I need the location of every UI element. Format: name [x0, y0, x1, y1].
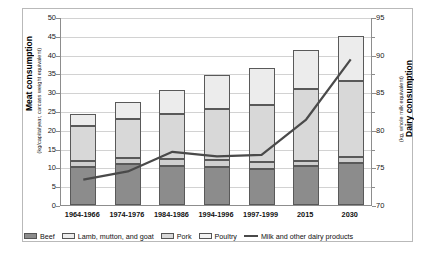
bar-stack [159, 17, 185, 205]
left-tick-label: 20 [32, 127, 56, 135]
right-minor-tick-mark [372, 74, 375, 75]
bar-stack [338, 17, 364, 205]
left-tick-label: 25 [32, 108, 56, 116]
right-minor-tick-mark [372, 150, 375, 151]
right-tick-mark [372, 168, 376, 169]
bar-segment-lamb [249, 68, 275, 106]
bar-segment-beef [204, 167, 230, 205]
legend-item-poultry[interactable]: Poultry [199, 232, 237, 241]
right-tick-label: 80 [376, 127, 402, 135]
bar-segment-lamb [115, 102, 141, 120]
legend-swatch-lamb [62, 233, 75, 239]
bar-segment-poultry [159, 159, 185, 165]
right-tick-label: 85 [376, 89, 402, 97]
right-tick-mark [372, 93, 376, 94]
bar-segment-lamb [159, 90, 185, 113]
bar-segment-beef [249, 169, 275, 205]
bar-segment-beef [293, 166, 319, 205]
bar-segment-lamb [70, 114, 96, 126]
bar-stack [70, 17, 96, 205]
right-tick-mark [372, 206, 376, 207]
bar-segment-poultry [70, 161, 96, 167]
legend-label: Pork [177, 232, 192, 241]
bar-segment-beef [115, 164, 141, 205]
bar-segment-pork [70, 126, 96, 161]
bar-segment-poultry [338, 157, 364, 163]
bar-stack [204, 17, 230, 205]
left-tick-label: 50 [32, 14, 56, 22]
left-tick-mark [56, 56, 60, 57]
bar-segment-pork [115, 119, 141, 157]
right-tick-label: 95 [376, 14, 402, 22]
legend-swatch-poultry [199, 233, 212, 239]
legend-item-beef[interactable]: Beef [24, 232, 55, 241]
chart-figure: Meat consumption (kg/capita/year, carcas… [0, 0, 435, 258]
right-tick-label: 90 [376, 52, 402, 60]
plot-area [60, 18, 372, 206]
right-tick-label: 70 [376, 202, 402, 210]
right-tick-label: 75 [376, 164, 402, 172]
left-tick-mark [56, 37, 60, 38]
bar-segment-beef [70, 167, 96, 205]
bar-segment-lamb [204, 75, 230, 110]
left-tick-mark [56, 112, 60, 113]
bar-segment-poultry [293, 161, 319, 167]
left-tick-mark [56, 93, 60, 94]
left-tick-label: 45 [32, 33, 56, 41]
legend-label: Beef [40, 232, 55, 241]
left-tick-mark [56, 131, 60, 132]
legend-swatch-beef [24, 233, 37, 239]
bar-stack [115, 17, 141, 205]
left-tick-mark [56, 168, 60, 169]
right-tick-mark [372, 131, 376, 132]
bar-segment-poultry [204, 160, 230, 168]
legend-label: Lamb, mutton, and goat [78, 232, 154, 241]
left-tick-mark [56, 74, 60, 75]
left-tick-mark [56, 206, 60, 207]
bar-segment-pork [249, 105, 275, 161]
bar-segment-poultry [115, 158, 141, 164]
chart-legend: BeefLamb, mutton, and goatPorkPoultryMil… [24, 230, 412, 242]
left-tick-label: 10 [32, 164, 56, 172]
left-tick-mark [56, 150, 60, 151]
bar-segment-pork [338, 81, 364, 157]
right-minor-tick-mark [372, 37, 375, 38]
bar-segment-pork [159, 114, 185, 159]
bar-segment-beef [159, 166, 185, 205]
bar-segment-lamb [338, 36, 364, 81]
legend-swatch-pork [161, 233, 174, 239]
bar-stack [293, 17, 319, 205]
legend-label: Milk and other dairy products [261, 232, 353, 241]
right-axis-title: Dairy consumption [404, 60, 414, 137]
bar-segment-pork [204, 109, 230, 160]
legend-line-marker [244, 235, 258, 237]
x-axis-label: 2030 [320, 210, 380, 219]
left-tick-label: 40 [32, 52, 56, 60]
left-tick-label: 5 [32, 183, 56, 191]
right-minor-tick-mark [372, 112, 375, 113]
left-tick-label: 30 [32, 89, 56, 97]
legend-item-milk[interactable]: Milk and other dairy products [244, 232, 353, 241]
right-tick-mark [372, 56, 376, 57]
bar-segment-poultry [249, 162, 275, 169]
bar-segment-beef [338, 163, 364, 205]
legend-label: Poultry [215, 232, 237, 241]
legend-item-pork[interactable]: Pork [161, 232, 192, 241]
left-tick-label: 35 [32, 70, 56, 78]
bar-segment-lamb [293, 50, 319, 89]
bar-stack [249, 17, 275, 205]
left-tick-mark [56, 187, 60, 188]
left-axis-subtitle: (kg/capita/year, carcass weight equivale… [36, 48, 42, 153]
bar-segment-pork [293, 89, 319, 160]
left-tick-label: 0 [32, 202, 56, 210]
left-tick-label: 15 [32, 146, 56, 154]
left-tick-mark [56, 18, 60, 19]
right-minor-tick-mark [372, 187, 375, 188]
right-tick-mark [372, 18, 376, 19]
legend-item-lamb[interactable]: Lamb, mutton, and goat [62, 232, 154, 241]
